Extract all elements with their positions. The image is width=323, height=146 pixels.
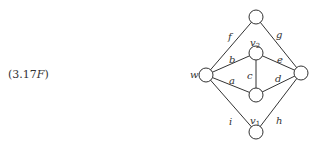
node-bottom bbox=[249, 125, 263, 139]
node-right bbox=[294, 66, 308, 80]
node-v1 bbox=[249, 88, 263, 102]
edge-label-a: a bbox=[229, 75, 235, 86]
graph-diagram: fgbecadihv2wv1 bbox=[0, 0, 323, 146]
edge-label-g: g bbox=[276, 29, 282, 40]
edge-label-f: f bbox=[227, 31, 234, 42]
node-top bbox=[249, 10, 263, 24]
node-label-w: w bbox=[190, 69, 199, 80]
edge-label-e: e bbox=[277, 54, 283, 65]
edge-f bbox=[206, 17, 256, 75]
edge-label-d: d bbox=[275, 73, 281, 84]
node-w bbox=[199, 68, 213, 82]
edge-label-h: h bbox=[276, 115, 282, 126]
edge-label-b: b bbox=[229, 54, 235, 65]
edge-label-i: i bbox=[229, 116, 232, 127]
edge-label-c: c bbox=[247, 70, 253, 81]
